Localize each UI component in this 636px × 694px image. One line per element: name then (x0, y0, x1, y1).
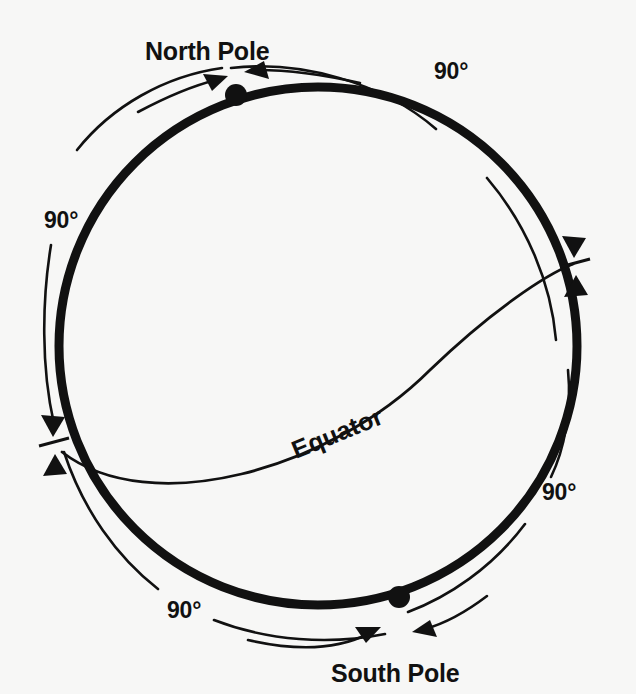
right-rim-arrow-junction (560, 236, 590, 297)
arc-bottom-left-segment-a (64, 452, 158, 589)
globe-diagram: North Pole South Pole Equator 90° 90° 90… (0, 0, 636, 694)
arc-left-segment-b (44, 245, 54, 424)
south-pole-dot (388, 586, 410, 608)
north-pole-label: North Pole (145, 37, 270, 65)
angle-label-bottom-right: 90° (542, 479, 576, 505)
great-circle (59, 87, 577, 605)
arc-left-segment-a (77, 68, 222, 150)
angle-label-bottom-left: 90° (167, 597, 201, 623)
angle-label-left: 90° (44, 207, 78, 233)
left-rim-arrow-junction (39, 415, 69, 476)
angle-label-top-right: 90° (434, 58, 468, 84)
south-pole-arrow-from-right (412, 596, 487, 637)
diagram-page: North Pole South Pole Equator 90° 90° 90… (0, 0, 636, 694)
arc-bottom-right-segment-b (408, 524, 525, 612)
south-pole-arrow-from-left (248, 627, 381, 647)
arc-top-right-segment-b (487, 178, 556, 340)
south-pole-label: South Pole (331, 659, 460, 687)
equator-label: Equator (287, 402, 386, 464)
north-pole-dot (225, 84, 247, 106)
